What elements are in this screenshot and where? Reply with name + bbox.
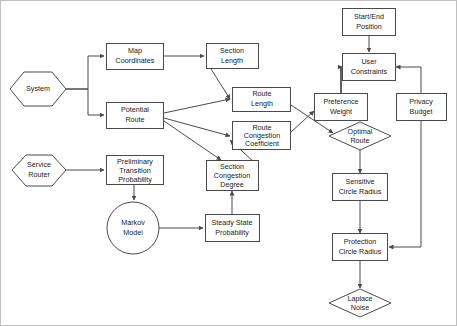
node-user-constraints[interactable]: User Constraints [343, 54, 396, 81]
potential-route-rect-shape [107, 103, 164, 129]
node-privacy-budget[interactable]: Privacy Budget [397, 94, 447, 121]
node-preference-weight[interactable]: Preference Weight [315, 94, 368, 121]
protection-radius-rect-shape [333, 234, 388, 261]
edge-privacy-budget-to-user-constraints [396, 67, 421, 94]
markov-model-circle-shape [107, 202, 159, 254]
system-hexagon-shape [10, 72, 66, 106]
node-section-congestion-degree[interactable]: Section Congestion Degree [207, 161, 259, 191]
edge-potential-route-to-route-congestion [164, 118, 230, 136]
route-congestion-rect-shape [233, 122, 291, 150]
privacy-budget-rect-shape [397, 94, 447, 121]
node-route-length[interactable]: Route Length [233, 88, 291, 112]
node-protection-circle-radius[interactable]: Protection Circle Radius [333, 234, 388, 261]
section-length-rect-shape [207, 44, 259, 69]
preference-weight-rect-shape [315, 94, 368, 121]
node-laplace-noise[interactable]: Laplace Noise [329, 289, 391, 317]
node-section-length[interactable]: Section Length [207, 44, 259, 69]
node-map-coordinates[interactable]: Map Coordinates [107, 44, 164, 70]
edge-preference-weight-to-user-constraints [341, 67, 342, 94]
edge-potential-route-to-route-length [164, 99, 230, 113]
node-optimal-route[interactable]: Optimal Route [329, 122, 391, 150]
edge-privacy-budget-to-protection-radius [389, 120, 421, 247]
prelim-transition-rect-shape [107, 156, 164, 185]
node-sensitive-circle-radius[interactable]: Sensitive Circle Radius [333, 174, 388, 201]
sensitive-radius-rect-shape [333, 174, 388, 201]
start-end-rect-shape [343, 9, 396, 36]
node-steady-state-probability[interactable]: Steady State Probability [206, 215, 260, 242]
node-service-router[interactable]: Service Router [12, 155, 66, 186]
laplace-noise-diamond-shape [329, 289, 391, 317]
service-router-hexagon-shape [12, 155, 66, 186]
edge-system-to-map-coordinates [66, 56, 104, 89]
node-potential-route[interactable]: Potential Route [107, 103, 164, 129]
node-system[interactable]: System [10, 72, 66, 106]
node-route-congestion-coefficient[interactable]: Route Congestion Coefficient [233, 122, 291, 150]
edge-route-congestion-to-preference-weight [291, 111, 314, 132]
section-congestion-rect-shape [207, 161, 259, 191]
user-constraints-rect-shape [343, 54, 396, 81]
steady-state-rect-shape [206, 215, 260, 242]
flowchart-canvas: System Service Router Map Coordinates Po… [0, 0, 457, 326]
edge-system-to-potential-route [66, 89, 104, 115]
flowchart-diagram: System Service Router Map Coordinates Po… [0, 0, 457, 326]
optimal-route-diamond-shape [329, 122, 391, 150]
edge-potential-route-to-section-congestion [164, 121, 221, 160]
node-start-end-position[interactable]: Start/End Position [343, 9, 396, 36]
node-preliminary-transition-probability[interactable]: Preliminary Transition Probability [107, 156, 164, 185]
edge-section-length-to-route-length [211, 69, 230, 99]
node-markov-model[interactable]: Markov Model [107, 202, 159, 254]
node-layer: System Service Router Map Coordinates Po… [10, 9, 447, 318]
route-length-rect-shape [233, 88, 291, 112]
map-coordinates-rect-shape [107, 44, 164, 70]
